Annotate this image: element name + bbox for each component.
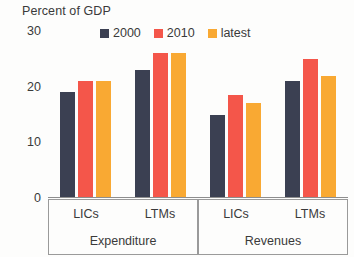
bar-2010-LTMs-2 xyxy=(153,53,168,198)
bar-group-2 xyxy=(123,31,198,198)
bar-groups xyxy=(48,31,348,198)
plot-area: 30 20 10 0 xyxy=(48,31,348,198)
category-label-expenditure-lics: LICs xyxy=(49,200,123,227)
category-label-revenues-ltms: LTMs xyxy=(273,200,347,227)
bar-group-4 xyxy=(273,31,348,198)
category-label-expenditure-ltms: LTMs xyxy=(123,200,197,227)
bar-latest-LTMs-4 xyxy=(321,76,336,198)
bar-2000-LICs-3 xyxy=(210,115,225,199)
y-axis-tick-20: 20 xyxy=(27,79,41,93)
bar-2010-LICs-1 xyxy=(78,81,93,198)
bar-2010-LTMs-4 xyxy=(303,59,318,198)
chart-title: Percent of GDP xyxy=(22,4,111,18)
section-expenditure: LICs LTMs Expenditure xyxy=(48,199,198,255)
bar-group-3 xyxy=(198,31,273,198)
bar-2000-LTMs-4 xyxy=(285,81,300,198)
bar-latest-LICs-3 xyxy=(246,103,261,198)
section-label-expenditure: Expenditure xyxy=(49,227,197,254)
section-revenues-subs: LICs LTMs xyxy=(199,200,347,227)
category-label-revenues-lics: LICs xyxy=(199,200,273,227)
bar-group-1 xyxy=(48,31,123,198)
y-axis-tick-10: 10 xyxy=(27,135,41,149)
section-expenditure-subs: LICs LTMs xyxy=(49,200,197,227)
x-axis-baseline xyxy=(48,197,348,198)
bar-2000-LICs-1 xyxy=(60,92,75,198)
bar-latest-LTMs-2 xyxy=(171,53,186,198)
bar-latest-LICs-1 xyxy=(96,81,111,198)
y-axis-tick-0: 0 xyxy=(34,191,41,205)
chart-container: Percent of GDP 2000 2010 latest 30 20 10… xyxy=(0,0,354,257)
section-revenues: LICs LTMs Revenues xyxy=(198,199,348,255)
section-label-revenues: Revenues xyxy=(199,227,347,254)
bar-2000-LTMs-2 xyxy=(135,70,150,198)
y-axis-tick-30: 30 xyxy=(27,24,41,38)
category-label-panel: LICs LTMs Expenditure LICs LTMs Revenues xyxy=(48,199,348,255)
bar-2010-LICs-3 xyxy=(228,95,243,198)
